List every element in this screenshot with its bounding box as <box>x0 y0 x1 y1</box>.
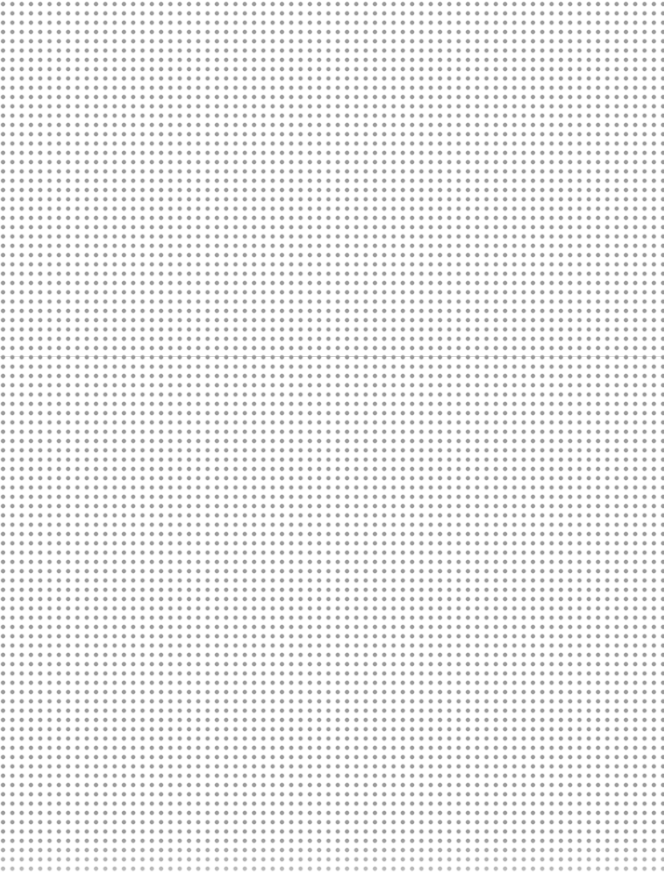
bottom-edge <box>0 835 664 875</box>
dot-grid-paper <box>0 0 664 875</box>
fold-line <box>0 356 664 357</box>
